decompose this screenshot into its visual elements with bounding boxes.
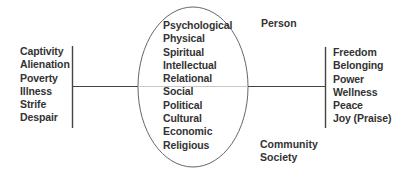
negative-conditions-list: Captivity Alienation Poverty Illness Str… xyxy=(20,45,70,125)
list-item: Cultural xyxy=(163,112,232,125)
community-label: Community xyxy=(260,138,318,151)
list-item: Captivity xyxy=(20,45,70,58)
list-item: Psychological xyxy=(163,19,232,32)
list-item: Alienation xyxy=(20,58,70,71)
community-society-labels: Community Society xyxy=(260,138,318,165)
list-item: Freedom xyxy=(333,46,391,59)
list-item: Belonging xyxy=(333,59,391,72)
list-item: Peace xyxy=(333,99,391,112)
list-item: Strife xyxy=(20,98,70,111)
list-item: Despair xyxy=(20,111,70,124)
list-item: Economic xyxy=(163,125,232,138)
list-item: Social xyxy=(163,85,232,98)
society-label: Society xyxy=(260,151,318,164)
list-item: Physical xyxy=(163,32,232,45)
list-item: Relational xyxy=(163,72,232,85)
list-item: Wellness xyxy=(333,86,391,99)
list-item: Poverty xyxy=(20,72,70,85)
list-item: Religious xyxy=(163,139,232,152)
positive-conditions-list: Freedom Belonging Power Wellness Peace J… xyxy=(333,46,391,126)
diagram-canvas: Captivity Alienation Poverty Illness Str… xyxy=(0,0,404,177)
list-item: Spiritual xyxy=(163,46,232,59)
list-item: Joy (Praise) xyxy=(333,112,391,125)
dimensions-list: Psychological Physical Spiritual Intelle… xyxy=(163,19,232,152)
list-item: Power xyxy=(333,73,391,86)
list-item: Political xyxy=(163,99,232,112)
list-item: Illness xyxy=(20,85,70,98)
list-item: Intellectual xyxy=(163,59,232,72)
person-label: Person xyxy=(261,17,297,30)
